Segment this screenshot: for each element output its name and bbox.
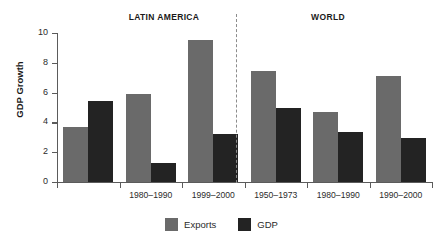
- bar-gdp: [151, 163, 176, 182]
- bar-group: [376, 33, 426, 182]
- gdp-growth-bar-chart: LATIN AMERICA WORLD GDP Growth 0246810 1…: [0, 0, 443, 244]
- panel-title-world: WORLD: [268, 12, 388, 22]
- bar-exports: [188, 40, 213, 182]
- x-tick-mark: [370, 182, 371, 188]
- y-tick-label: 6: [8, 87, 48, 97]
- bar-exports: [313, 112, 338, 182]
- y-tick-label: 10: [8, 27, 48, 37]
- x-tick-mark: [182, 182, 183, 188]
- bar-group: [126, 33, 176, 182]
- plot-area: [57, 33, 432, 182]
- bar-exports: [376, 76, 401, 182]
- x-tick-mark: [245, 182, 246, 188]
- legend-swatch-icon: [238, 218, 251, 231]
- y-tick-label: 2: [8, 146, 48, 156]
- legend-item-exports: Exports: [165, 218, 216, 231]
- x-tick-mark: [57, 182, 58, 188]
- bar-exports: [63, 127, 88, 182]
- y-tick-label: 0: [8, 176, 48, 186]
- bar-gdp: [338, 132, 363, 182]
- bar-gdp: [213, 134, 238, 182]
- bar-group: [313, 33, 363, 182]
- bar-group: [63, 33, 113, 182]
- chart-legend: ExportsGDP: [0, 218, 443, 231]
- bar-gdp: [276, 108, 301, 182]
- y-tick-label: 4: [8, 116, 48, 126]
- x-axis-label: 1990–2000: [364, 190, 438, 200]
- bar-gdp: [88, 101, 113, 182]
- y-tick-label: 8: [8, 57, 48, 67]
- x-tick-mark: [432, 182, 433, 188]
- bar-gdp: [401, 138, 426, 182]
- legend-swatch-icon: [165, 218, 178, 231]
- panel-divider: [236, 14, 237, 183]
- legend-item-gdp: GDP: [238, 218, 278, 231]
- x-tick-mark: [307, 182, 308, 188]
- bar-group: [251, 33, 301, 182]
- legend-label: GDP: [257, 219, 278, 230]
- panel-title-latin-america: LATIN AMERICA: [104, 12, 224, 22]
- bar-exports: [126, 94, 151, 182]
- bar-group: [188, 33, 238, 182]
- bar-exports: [251, 71, 276, 182]
- legend-label: Exports: [184, 219, 216, 230]
- x-tick-mark: [120, 182, 121, 188]
